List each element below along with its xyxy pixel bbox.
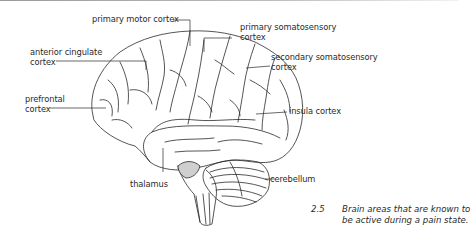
figure-number: 2.5	[311, 204, 325, 215]
label-insula-cortex: insula cortex	[289, 106, 341, 116]
label-primary-motor-cortex: primary motor cortex	[92, 14, 179, 24]
label-primary-somatosensory-cortex: primary somatosensory cortex	[240, 22, 336, 42]
label-thalamus: thalamus	[130, 179, 168, 189]
caption-text: Brain areas that are known to be active …	[342, 204, 470, 226]
leader-primary-somatosensory	[204, 38, 232, 52]
label-cerebellum: cerebellum	[270, 174, 315, 184]
label-prefrontal-cortex: prefrontal cortex	[25, 94, 65, 114]
cerebellum-outline	[203, 160, 270, 206]
leader-secondary-somatosensory	[246, 66, 270, 68]
leader-insula	[256, 112, 287, 114]
label-anterior-cingulate-cortex: anterior cingulate cortex	[30, 47, 102, 67]
label-secondary-somatosensory-cortex: secondary somatosensory cortex	[271, 52, 378, 72]
